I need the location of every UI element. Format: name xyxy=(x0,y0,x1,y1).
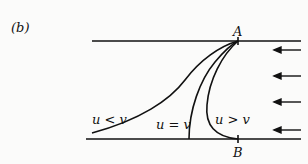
arrow-left-icon xyxy=(274,47,301,53)
label-u-greater-v: u > v xyxy=(215,113,250,126)
panel-label: (b) xyxy=(11,21,29,34)
arrow-left-icon xyxy=(274,73,301,79)
point-a-label: A xyxy=(233,25,242,38)
label-u-less-v: u < v xyxy=(92,113,127,126)
point-b-label: B xyxy=(233,146,243,159)
diagram-canvas xyxy=(0,0,308,164)
arrow-left-icon xyxy=(274,127,301,133)
diagram-root: (b) A B u < v u = v u > v xyxy=(0,0,308,164)
label-u-equal-v: u = v xyxy=(156,118,191,131)
arrow-left-icon xyxy=(274,99,301,105)
